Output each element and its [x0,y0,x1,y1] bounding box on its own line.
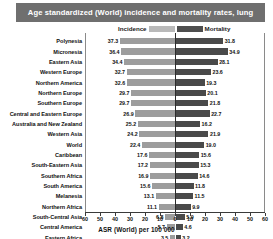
incidence-cell: 17.6 [85,150,175,160]
mortality-bar [176,131,208,137]
category-label: South-Central Asia [0,214,82,220]
x-tick-label: 60 [262,216,268,222]
incidence-cell: 32.7 [85,67,175,77]
chart-container: Age standardized (World) incidence and m… [0,0,273,239]
category-label: South America [0,183,82,189]
table-row: Eastern Africa3.53.2 [0,233,273,239]
mortality-value: 34.9 [229,49,239,55]
category-label: South-Eastern Asia [0,162,82,168]
category-label: Caribbean [0,152,82,158]
mortality-cell: 34.9 [176,46,266,56]
mortality-value: 22.7 [211,111,221,117]
incidence-bar [131,90,175,96]
table-row: Micronesia36.434.9 [0,46,273,56]
incidence-value: 26.9 [123,111,133,117]
mortality-cell: 19.0 [176,139,266,149]
mortality-bar [176,100,208,106]
mortality-cell: 21.9 [176,129,266,139]
category-label: Western Europe [0,69,82,75]
mortality-value: 23.6 [213,69,223,75]
mortality-bar [176,59,218,65]
mortality-bar [176,110,210,116]
incidence-value: 16.9 [138,173,148,179]
mortality-cell: 21.8 [176,98,266,108]
category-label: Micronesia [0,49,82,55]
mortality-value: 19.3 [206,80,216,86]
category-label: Northern Europe [0,90,82,96]
mortality-value: 15.3 [200,162,210,168]
x-axis-title: ASR (World) per 100 000 [0,226,273,233]
incidence-cell: 13.1 [85,191,175,201]
mortality-bar [176,48,228,54]
category-label: Australia and New Zealand [0,121,82,127]
mortality-value: 3.2 [182,235,189,239]
table-row: Northern America32.619.3 [0,77,273,87]
mortality-cell: 20.1 [176,88,266,98]
mortality-value: 11.5 [195,193,205,199]
incidence-value: 24.2 [127,131,137,137]
incidence-value: 29.7 [119,90,129,96]
category-label: Southern Europe [0,100,82,106]
bar-rows: Polynesia37.331.8Micronesia36.434.9Easte… [0,36,273,239]
incidence-cell: 26.9 [85,108,175,118]
table-row: World22.419.0 [0,139,273,149]
incidence-cell: 34.4 [85,57,175,67]
incidence-value: 11.1 [147,204,157,210]
incidence-bar [135,110,175,116]
mortality-value: 19.0 [206,142,216,148]
mortality-bar [176,173,198,179]
incidence-value: 29.7 [119,100,129,106]
incidence-bar [127,79,175,85]
mortality-bar [176,121,200,127]
x-axis-ticks: 6050403020100102030405060 [85,213,265,222]
incidence-bar [121,48,175,54]
incidence-value: 22.4 [130,142,140,148]
category-label: Northern Africa [0,204,82,210]
table-row: Central and Eastern Europe26.922.7 [0,108,273,118]
x-tick-label: 20 [202,216,208,222]
mortality-bar [176,162,199,168]
category-label: Eastern Africa [0,235,82,239]
legend-label-mortality: Mortality [205,25,231,32]
incidence-cell: 22.4 [85,139,175,149]
mortality-bar [176,79,205,85]
incidence-value: 25.2 [126,121,136,127]
category-label: Northern America [0,80,82,86]
incidence-bar [150,162,176,168]
incidence-value: 32.7 [115,69,125,75]
mortality-cell: 11.8 [176,181,266,191]
mortality-value: 16.2 [202,121,212,127]
table-row: Eastern Asia34.428.1 [0,57,273,67]
incidence-cell: 29.7 [85,98,175,108]
mortality-value: 15.6 [201,152,211,158]
table-row: Western Europe32.723.6 [0,67,273,77]
incidence-bar [138,121,175,127]
incidence-cell: 37.3 [85,36,175,46]
category-label: Eastern Asia [0,59,82,65]
mortality-value: 21.8 [210,100,220,106]
x-tick-label: 10 [187,216,193,222]
incidence-value: 17.6 [137,152,147,158]
table-row: Northern Africa11.19.9 [0,202,273,212]
incidence-bar [120,38,175,44]
table-row: Southern Africa16.914.6 [0,170,273,180]
incidence-cell: 15.6 [85,181,175,191]
incidence-value: 17.2 [138,162,148,168]
mortality-bar [176,142,204,148]
legend-swatch-mortality [177,26,203,32]
mortality-value: 9.9 [192,204,199,210]
mortality-cell: 11.5 [176,191,266,201]
mortality-cell: 14.6 [176,170,266,180]
mortality-cell: 16.2 [176,119,266,129]
table-row: Melanesia13.111.5 [0,191,273,201]
incidence-cell: 32.6 [85,77,175,87]
legend-label-incidence: Incidence [118,25,147,32]
mortality-value: 31.8 [225,38,235,44]
incidence-bar [142,142,175,148]
incidence-bar [124,59,175,65]
incidence-cell: 16.9 [85,170,175,180]
mortality-value: 28.1 [219,59,229,65]
incidence-value: 34.4 [112,59,122,65]
mortality-cell: 28.1 [176,57,266,67]
mortality-value: 20.1 [207,90,217,96]
